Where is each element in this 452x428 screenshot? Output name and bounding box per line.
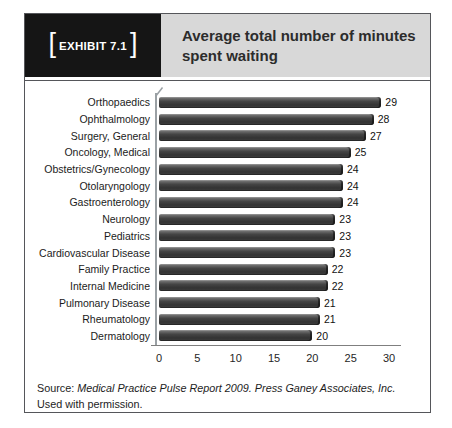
bar — [159, 297, 320, 308]
value-label: 20 — [316, 330, 328, 342]
value-label: 21 — [324, 313, 336, 325]
exhibit-number: EXHIBIT 7.1 — [59, 40, 127, 52]
bar-track: 24 — [156, 161, 430, 178]
exhibit-header: [ EXHIBIT 7.1 ] Average total number of … — [25, 14, 430, 77]
chart-title: Average total number of minutes spent wa… — [182, 26, 417, 66]
category-label: Neurology — [25, 213, 156, 225]
value-label: 23 — [339, 213, 351, 225]
bar-track: 24 — [156, 177, 430, 194]
bar — [159, 230, 335, 241]
source-citation: Medical Practice Pulse Report 2009. Pres… — [77, 382, 395, 394]
bar — [159, 330, 312, 341]
bar-track: 22 — [156, 261, 430, 278]
x-tick-label: 30 — [383, 352, 395, 364]
bar-row: Neurology23 — [25, 211, 430, 228]
value-label: 23 — [339, 230, 351, 242]
bar-track: 27 — [156, 127, 430, 144]
x-tick-label: 15 — [268, 352, 280, 364]
bar — [159, 247, 335, 258]
bar-row: Gastroenterology24 — [25, 194, 430, 211]
exhibit-label-box: [ EXHIBIT 7.1 ] — [25, 14, 161, 77]
category-label: Rheumatology — [25, 313, 156, 325]
chart-title-box: Average total number of minutes spent wa… — [161, 14, 430, 77]
x-tick-label: 10 — [230, 352, 242, 364]
bar-track: 24 — [156, 194, 430, 211]
bar-track: 23 — [156, 211, 430, 228]
bar-track: 23 — [156, 228, 430, 245]
category-label: Gastroenterology — [25, 196, 156, 208]
bar-row: Rheumatology21 — [25, 311, 430, 328]
category-label: Oncology, Medical — [25, 146, 156, 158]
bar-row: Obstetrics/Gynecology24 — [25, 161, 430, 178]
value-label: 23 — [339, 247, 351, 259]
exhibit-frame: [ EXHIBIT 7.1 ] Average total number of … — [24, 13, 431, 413]
bar-row: Otolaryngology24 — [25, 177, 430, 194]
bar-row: Ophthalmology28 — [25, 111, 430, 128]
x-tick-label: 0 — [156, 352, 162, 364]
value-label: 24 — [347, 196, 359, 208]
bar — [159, 130, 366, 141]
value-label: 21 — [324, 297, 336, 309]
axis-3d-corner-icon — [154, 86, 166, 98]
value-label: 25 — [355, 146, 367, 158]
y-axis-line — [155, 93, 157, 346]
bar-row: Oncology, Medical25 — [25, 144, 430, 161]
right-bracket-glyph: ] — [127, 31, 141, 55]
value-label: 24 — [347, 180, 359, 192]
bar-row: Internal Medicine22 — [25, 278, 430, 295]
source-note: Source: Medical Practice Pulse Report 20… — [25, 373, 430, 412]
bar — [159, 114, 374, 125]
bar-track: 22 — [156, 278, 430, 295]
x-axis-line — [151, 345, 401, 346]
bar-row: Family Practice22 — [25, 261, 430, 278]
category-label: Pulmonary Disease — [25, 297, 156, 309]
bar — [159, 97, 381, 108]
category-label: Pediatrics — [25, 230, 156, 242]
bar — [159, 180, 343, 191]
category-label: Orthopaedics — [25, 96, 156, 108]
x-tick-label: 5 — [194, 352, 200, 364]
bar — [159, 264, 328, 275]
source-prefix: Source: — [37, 382, 77, 394]
bar-track: 29 — [156, 94, 430, 111]
bar-chart: Orthopaedics29Ophthalmology28Surgery, Ge… — [25, 81, 430, 373]
category-label: Internal Medicine — [25, 280, 156, 292]
bar — [159, 164, 343, 175]
bar-row: Orthopaedics29 — [25, 94, 430, 111]
value-label: 29 — [385, 96, 397, 108]
x-tick-label: 20 — [306, 352, 318, 364]
value-label: 22 — [332, 280, 344, 292]
bar-track: 28 — [156, 111, 430, 128]
category-label: Surgery, General — [25, 130, 156, 142]
value-label: 24 — [347, 163, 359, 175]
category-label: Ophthalmology — [25, 113, 156, 125]
left-bracket-glyph: [ — [46, 31, 60, 55]
category-label: Obstetrics/Gynecology — [25, 163, 156, 175]
bar-row: Dermatology20 — [25, 328, 430, 345]
bar-track: 25 — [156, 144, 430, 161]
value-label: 27 — [370, 130, 382, 142]
bar — [159, 214, 335, 225]
bar-track: 21 — [156, 311, 430, 328]
bar-rows: Orthopaedics29Ophthalmology28Surgery, Ge… — [25, 94, 430, 344]
bar — [159, 280, 328, 291]
bar-row: Surgery, General27 — [25, 127, 430, 144]
bar — [159, 147, 351, 158]
bar — [159, 197, 343, 208]
bar-track: 21 — [156, 294, 430, 311]
bar — [159, 314, 320, 325]
bar-track: 23 — [156, 244, 430, 261]
bar-row: Cardiovascular Disease23 — [25, 244, 430, 261]
x-tick-label: 25 — [345, 352, 357, 364]
value-label: 28 — [378, 113, 390, 125]
category-label: Cardiovascular Disease — [25, 247, 156, 259]
bar-row: Pediatrics23 — [25, 228, 430, 245]
category-label: Dermatology — [25, 330, 156, 342]
value-label: 22 — [332, 263, 344, 275]
bar-track: 20 — [156, 328, 430, 345]
source-suffix: Used with permission. — [37, 398, 143, 410]
bar-row: Pulmonary Disease21 — [25, 294, 430, 311]
category-label: Otolaryngology — [25, 180, 156, 192]
category-label: Family Practice — [25, 263, 156, 275]
